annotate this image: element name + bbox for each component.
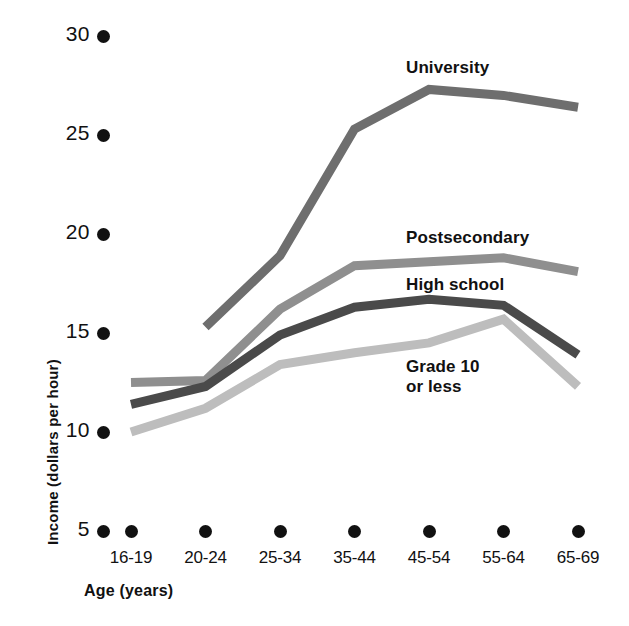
chart-container: Income (dollars per hour) Age (years) 51… — [0, 0, 629, 626]
series-line — [206, 89, 579, 327]
series-line — [131, 319, 578, 432]
plot-area — [0, 0, 629, 626]
